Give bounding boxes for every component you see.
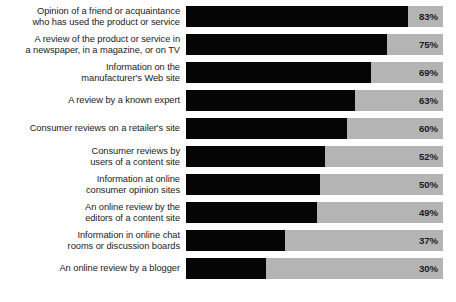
- bar-category-label: Information on the manufacturer's Web si…: [14, 62, 186, 83]
- bar-category-label: An online review by the editors of a con…: [14, 202, 186, 223]
- bar-row: Consumer reviews on a retailer's site 60…: [14, 118, 443, 139]
- bar-category-label: Information at online consumer opinion s…: [14, 174, 186, 195]
- bar-category-label: Information in online chat rooms or disc…: [14, 230, 186, 251]
- bar-value-label: 75%: [419, 34, 438, 55]
- bar-category-label: A review of the product or service in a …: [14, 34, 186, 55]
- bar-value-label: 63%: [419, 90, 438, 111]
- bar-category-label: An online review by a blogger: [14, 263, 186, 274]
- bar-row: Information on the manufacturer's Web si…: [14, 62, 443, 83]
- bar-fill: [186, 62, 371, 83]
- bar-fill: [186, 118, 347, 139]
- bar-value-label: 37%: [419, 230, 438, 251]
- bar-value-label: 83%: [419, 6, 438, 27]
- bar-track: 63%: [186, 90, 443, 111]
- horizontal-bar-chart: Opinion of a friend or acquaintance who …: [0, 0, 456, 302]
- bar-row: A review by a known expert 63%: [14, 90, 443, 111]
- bar-value-label: 69%: [419, 62, 438, 83]
- bar-fill: [186, 34, 387, 55]
- bar-row: An online review by a blogger 30%: [14, 258, 443, 279]
- bar-row: Information in online chat rooms or disc…: [14, 230, 443, 251]
- bar-track: 37%: [186, 230, 443, 251]
- bar-value-label: 30%: [419, 258, 438, 279]
- bar-row: Information at online consumer opinion s…: [14, 174, 443, 195]
- bar-category-label: Consumer reviews by users of a content s…: [14, 146, 186, 167]
- bar-row: An online review by the editors of a con…: [14, 202, 443, 223]
- bar-category-label: Opinion of a friend or acquaintance who …: [14, 6, 186, 27]
- bar-track: 60%: [186, 118, 443, 139]
- bar-fill: [186, 202, 317, 223]
- bar-value-label: 60%: [419, 118, 438, 139]
- bar-fill: [186, 90, 355, 111]
- bar-category-label: Consumer reviews on a retailer's site: [14, 123, 186, 134]
- bar-track: 30%: [186, 258, 443, 279]
- bar-track: 52%: [186, 146, 443, 167]
- bar-value-label: 49%: [419, 202, 438, 223]
- bar-fill: [186, 258, 266, 279]
- bar-fill: [186, 6, 408, 27]
- bar-track: 83%: [186, 6, 443, 27]
- bar-row: Consumer reviews by users of a content s…: [14, 146, 443, 167]
- bar-track: 69%: [186, 62, 443, 83]
- bar-track: 75%: [186, 34, 443, 55]
- bar-fill: [186, 230, 285, 251]
- bar-category-label: A review by a known expert: [14, 95, 186, 106]
- bar-track: 49%: [186, 202, 443, 223]
- bar-value-label: 50%: [419, 174, 438, 195]
- bar-row: A review of the product or service in a …: [14, 34, 443, 55]
- bar-track: 50%: [186, 174, 443, 195]
- bar-fill: [186, 146, 325, 167]
- bar-fill: [186, 174, 320, 195]
- bar-value-label: 52%: [419, 146, 438, 167]
- bar-row: Opinion of a friend or acquaintance who …: [14, 6, 443, 27]
